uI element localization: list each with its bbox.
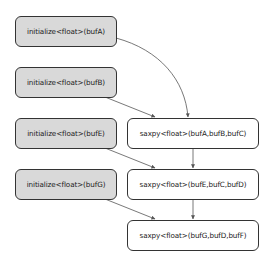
node-label: saxpy<float>(bufE,bufC,bufD) xyxy=(140,180,247,189)
node-saxpy-2: saxpy<float>(bufE,bufC,bufD) xyxy=(127,169,259,200)
edge-initG-saxpy3 xyxy=(105,199,155,219)
node-label: saxpy<float>(bufA,bufB,bufC) xyxy=(140,129,247,138)
node-label: initialize<float>(bufG) xyxy=(27,180,106,189)
edge-initE-saxpy2 xyxy=(105,148,155,168)
node-init-bufA: initialize<float>(bufA) xyxy=(15,16,117,47)
node-init-bufB: initialize<float>(bufB) xyxy=(15,67,117,98)
node-init-bufE: initialize<float>(bufE) xyxy=(15,118,117,149)
node-label: initialize<float>(bufE) xyxy=(27,129,105,138)
node-saxpy-3: saxpy<float>(bufG,bufD,bufF) xyxy=(127,220,259,251)
edge-initB-saxpy1 xyxy=(105,97,155,117)
node-init-bufG: initialize<float>(bufG) xyxy=(15,169,117,200)
node-saxpy-1: saxpy<float>(bufA,bufB,bufC) xyxy=(127,118,259,149)
node-label: initialize<float>(bufB) xyxy=(27,78,105,87)
task-graph: initialize<float>(bufA) initialize<float… xyxy=(0,0,273,266)
node-label: initialize<float>(bufA) xyxy=(27,27,105,36)
node-label: saxpy<float>(bufG,bufD,bufF) xyxy=(140,231,247,240)
edge-initA-saxpy1 xyxy=(116,38,188,117)
